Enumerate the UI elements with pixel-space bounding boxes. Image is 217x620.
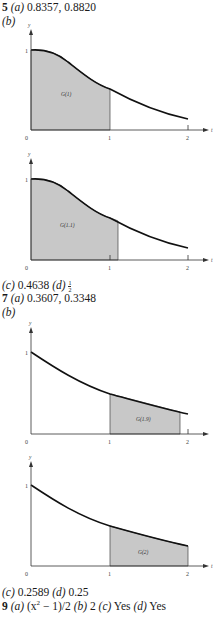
- region-label: G(1.9): [136, 416, 151, 423]
- part-label: (d): [52, 586, 65, 598]
- part-label: (c): [99, 600, 112, 612]
- part-label: (a): [11, 600, 24, 612]
- region-label: G(1): [61, 91, 72, 98]
- shaded-region: [110, 526, 188, 566]
- part-label: (d): [52, 279, 65, 291]
- x-tick-0: 0: [25, 571, 28, 577]
- part-label: (b): [74, 600, 87, 612]
- answer-value: 0.25: [68, 586, 88, 598]
- x-tick-2: 2: [186, 265, 189, 271]
- x-tick-2: 2: [186, 571, 189, 577]
- graph-7b-1: y 1 0 1 2 G(1.9): [0, 300, 217, 450]
- y-axis-label: y: [28, 454, 32, 460]
- answer-value: 0.2589: [18, 586, 50, 598]
- curve: [31, 352, 188, 414]
- y-axis-label: y: [27, 22, 31, 28]
- region-label: G(2): [138, 549, 149, 556]
- shaded-region: [31, 50, 110, 130]
- answer-value: 0.4638: [18, 279, 50, 291]
- region-label: G(1.1): [60, 222, 75, 229]
- answer-value: Yes: [149, 600, 166, 612]
- y-tick-1: 1: [25, 483, 28, 489]
- graph-5b-1: y t 1 0 1 2 G(1): [0, 0, 217, 145]
- problem-7-part-cd: (c) 0.2589 (d) 0.25: [2, 586, 89, 599]
- x-axis-label: t: [211, 257, 213, 263]
- x-tick-0: 0: [25, 265, 28, 271]
- problem-5-part-cd: (c) 0.4638 (d) 1 2: [2, 279, 71, 293]
- y-tick-1: 1: [25, 350, 28, 356]
- graph-7b-2: y t 1 0 1 2 G(2): [0, 440, 217, 580]
- answer-value: 2: [90, 600, 96, 612]
- shaded-region: [31, 179, 118, 260]
- y-tick-1: 1: [25, 48, 28, 54]
- x-tick-1: 1: [108, 265, 111, 271]
- part-label: (c): [2, 279, 15, 291]
- x-axis-label: t: [211, 563, 213, 569]
- fraction-value: 1 2: [68, 280, 71, 293]
- part-label: (d): [133, 600, 146, 612]
- answer-value: (x2 − 1)/2: [27, 600, 71, 612]
- y-tick-1: 1: [25, 177, 28, 183]
- curve: [31, 485, 188, 546]
- graph-5b-2: y t 1 0 1 2 G(1.1): [0, 140, 217, 275]
- x-axis-label: t: [211, 127, 213, 133]
- y-axis-label: y: [28, 320, 32, 326]
- answer-value: Yes: [114, 600, 131, 612]
- part-label: (c): [2, 586, 15, 598]
- problem-number: 9: [2, 600, 8, 612]
- problem-9-answers: 9 (a) (x2 − 1)/2 (b) 2 (c) Yes (d) Yes: [2, 600, 166, 613]
- shaded-region: [110, 394, 180, 434]
- y-axis-label: y: [27, 151, 31, 157]
- x-tick-1: 1: [108, 571, 111, 577]
